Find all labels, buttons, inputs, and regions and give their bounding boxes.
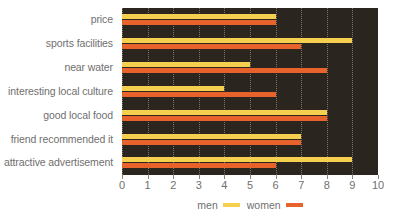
value-axis: 012345678910 — [122, 175, 378, 195]
axis-tick-label: 6 — [273, 179, 279, 191]
plot-area — [122, 8, 378, 175]
category-axis: pricesports facilitiesnear waterinterest… — [0, 8, 118, 175]
bar-women — [122, 116, 327, 121]
bar-group — [122, 37, 378, 50]
bar-women — [122, 92, 276, 97]
axis-tick-label: 2 — [170, 179, 176, 191]
bar-group — [122, 85, 378, 98]
bar-group — [122, 156, 378, 169]
axis-tick-label: 5 — [247, 179, 253, 191]
bar-women — [122, 44, 301, 49]
axis-tick-label: 10 — [372, 179, 384, 191]
legend-swatch-women — [286, 203, 303, 207]
bar-men — [122, 157, 352, 162]
axis-tick-label: 9 — [349, 179, 355, 191]
category-label: price — [0, 14, 118, 25]
bar-women — [122, 163, 276, 168]
bar-men — [122, 86, 224, 91]
axis-tick-label: 0 — [119, 179, 125, 191]
axis-tick-label: 8 — [324, 179, 330, 191]
category-label: interesting local culture — [0, 86, 118, 97]
bar-group — [122, 109, 378, 122]
bar-women — [122, 140, 301, 145]
category-label: near water — [0, 62, 118, 73]
bar-group — [122, 61, 378, 74]
axis-tick-label: 7 — [298, 179, 304, 191]
bar-women — [122, 20, 276, 25]
bars-layer — [122, 8, 378, 175]
category-label: good local food — [0, 110, 118, 121]
bar-men — [122, 38, 352, 43]
bar-men — [122, 62, 250, 67]
bar-group — [122, 13, 378, 26]
axis-tick-label: 4 — [221, 179, 227, 191]
axis-tick-label: 3 — [196, 179, 202, 191]
bar-group — [122, 133, 378, 146]
legend-entry-women: women — [247, 199, 303, 211]
grouped-bar-chart: pricesports facilitiesnear waterinterest… — [0, 0, 394, 216]
category-label: attractive advertisement — [0, 157, 118, 168]
legend-label: men — [197, 199, 217, 211]
axis-tick-label: 1 — [145, 179, 151, 191]
category-label: friend recommended it — [0, 134, 118, 145]
legend-swatch-men — [223, 203, 240, 207]
legend-entry-men: men — [197, 199, 239, 211]
bar-men — [122, 110, 327, 115]
bar-men — [122, 134, 301, 139]
bar-men — [122, 14, 276, 19]
chart-legend: menwomen — [122, 197, 378, 213]
bar-women — [122, 68, 327, 73]
legend-label: women — [247, 199, 281, 211]
category-label: sports facilities — [0, 38, 118, 49]
